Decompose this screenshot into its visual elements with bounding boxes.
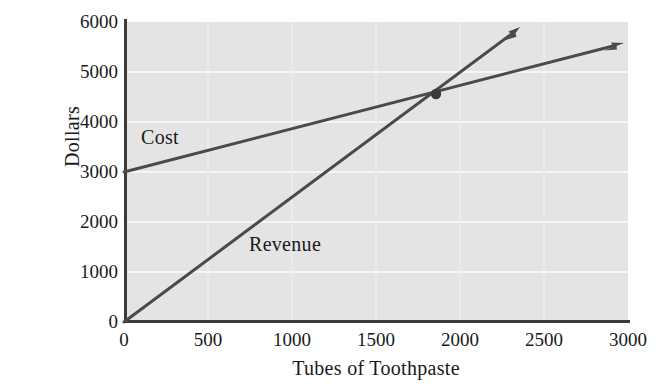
x-tick-label-2500: 2500 [509, 329, 579, 351]
x-tick-label-500: 500 [173, 329, 243, 351]
break-even-point-marker [431, 89, 441, 99]
break-even-chart: 0 1000 2000 3000 4000 5000 6000 0 500 10… [0, 0, 672, 389]
x-tick-label-1500: 1500 [341, 329, 411, 351]
x-axis-title: Tubes of Toothpaste [124, 357, 628, 380]
cost-series-label: Cost [141, 126, 179, 149]
y-axis-title: Dollars [61, 57, 84, 217]
y-tick-label-6000: 6000 [48, 11, 118, 33]
x-tick-label-2000: 2000 [425, 329, 495, 351]
y-tick-label-1000: 1000 [48, 261, 118, 283]
x-tick-label-0: 0 [89, 329, 159, 351]
x-tick-label-3000: 3000 [593, 329, 663, 351]
x-tick-label-1000: 1000 [257, 329, 327, 351]
revenue-series-label: Revenue [249, 233, 321, 256]
